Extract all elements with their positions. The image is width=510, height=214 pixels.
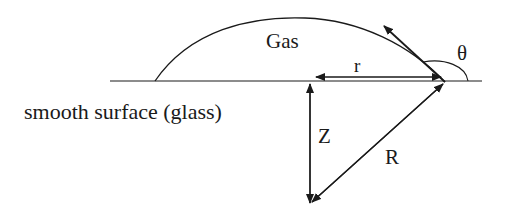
gas-label: Gas	[266, 29, 299, 53]
tangent-arrow	[384, 26, 445, 82]
r-label: r	[354, 55, 361, 76]
surface-label: smooth surface (glass)	[24, 99, 222, 124]
R-arrow	[312, 84, 443, 202]
R-label: R	[385, 145, 399, 169]
theta-label: θ	[457, 41, 467, 65]
z-label: Z	[318, 124, 331, 148]
gas-bubble-dome	[155, 18, 445, 82]
contact-angle-diagram: Gas θ r Z R smooth surface (glass)	[0, 0, 510, 214]
